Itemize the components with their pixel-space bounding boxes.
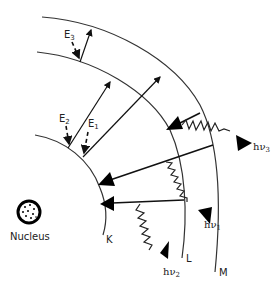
nucleus-icon xyxy=(18,201,40,223)
e1-pointer xyxy=(84,132,88,153)
excitation-arrow-e2 xyxy=(68,82,110,148)
transition-m-to-l xyxy=(178,113,200,124)
transition-l-to-k xyxy=(112,200,184,203)
shell-m-arc xyxy=(42,17,218,272)
photon-hv3-head xyxy=(236,135,252,151)
shell-k-arc xyxy=(35,135,106,235)
excitation-arrow-e1 xyxy=(83,77,160,157)
e1-label: E1 xyxy=(88,118,99,131)
photon-hv2-head xyxy=(160,241,169,259)
e2-pointer xyxy=(66,126,69,144)
transition-m-to-l-head xyxy=(166,116,183,130)
atomic-shell-diagram: E3 E2 E1 hν3 hν1 hν2 K L M Nucleus xyxy=(0,0,277,292)
transition-m-to-k xyxy=(110,145,213,180)
nucleus-label: Nucleus xyxy=(10,231,50,242)
transition-l-to-k-head xyxy=(100,196,114,211)
shell-l-label: L xyxy=(186,253,192,264)
photon-hv2-label: hν2 xyxy=(163,266,180,279)
shell-k-label: K xyxy=(106,234,113,245)
excitation-arrow-e3 xyxy=(80,30,91,62)
e3-label: E3 xyxy=(64,29,75,42)
e2-label: E2 xyxy=(59,113,70,126)
transition-m-to-k-head xyxy=(98,172,115,186)
photon-hv3-label: hν3 xyxy=(253,141,270,154)
photon-hv2-wave xyxy=(136,204,152,250)
e3-pointer xyxy=(72,42,79,58)
shell-m-label: M xyxy=(219,267,228,278)
photon-hv3-wave xyxy=(182,120,230,131)
shell-l-arc xyxy=(37,52,185,258)
